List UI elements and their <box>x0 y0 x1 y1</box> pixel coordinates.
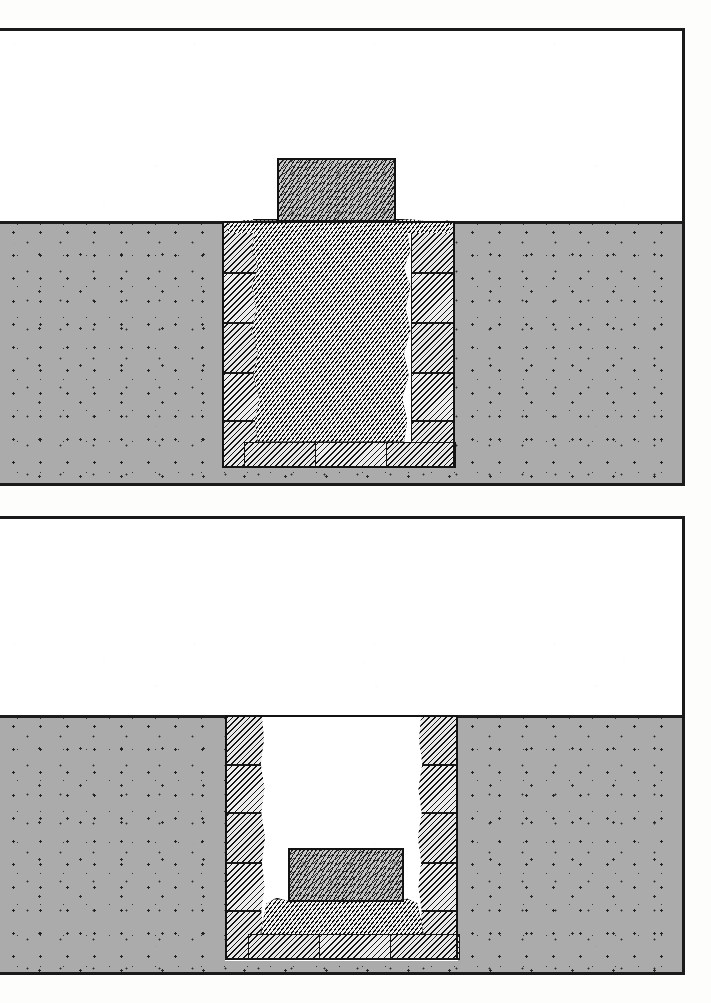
floor-slab <box>319 934 391 960</box>
wall-course <box>416 863 458 911</box>
floor-slab <box>390 934 460 960</box>
floor-slab <box>248 934 320 960</box>
floor-slab <box>244 442 316 468</box>
right-revetment-wall-lower <box>416 715 458 960</box>
left-revetment-wall-lower <box>225 715 267 960</box>
in-situ-stone-block-lower <box>288 848 404 902</box>
panel-lower <box>0 516 685 975</box>
capstone-marker-upper <box>277 158 396 222</box>
floor-slab <box>315 442 387 468</box>
wall-course <box>225 715 267 765</box>
rubble-deposit-lower <box>260 898 424 936</box>
wall-course <box>225 813 267 863</box>
wall-course <box>416 765 458 813</box>
rubble-backfill-upper <box>250 219 412 443</box>
panel-upper <box>0 28 685 486</box>
wall-course <box>225 765 267 813</box>
floor-slab <box>386 442 456 468</box>
wall-course <box>411 373 455 421</box>
wall-course <box>225 863 267 911</box>
wall-course <box>411 273 455 323</box>
right-revetment-wall-upper <box>411 221 455 468</box>
wall-course <box>416 715 458 765</box>
scanned-page <box>0 0 711 1003</box>
wall-course <box>416 813 458 863</box>
wall-course <box>411 323 455 373</box>
